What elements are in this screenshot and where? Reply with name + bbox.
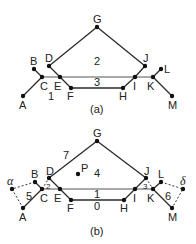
label-h: H [120,202,128,214]
vertex-e [58,75,62,79]
vertex-k [151,75,155,79]
label-d: D [45,52,53,64]
label-l: L [158,168,164,180]
face-label-2: 2 [46,182,51,191]
label-c: C [40,192,48,204]
edge-i-j [135,66,145,77]
label-g: G [93,13,102,25]
label-alpha: α [7,174,14,188]
vertex-d [47,64,51,68]
caption-b: (b) [90,225,103,237]
vertex-b [32,67,36,71]
edge-g-j [97,27,145,66]
label-f: F [67,90,74,102]
face-label-6: 6 [165,190,171,202]
label-c: C [40,80,48,92]
vertex-m [170,206,174,210]
face-label-4: 4 [94,167,100,179]
label-delta: δ [180,174,186,188]
label-b: B [31,168,38,180]
vertex-c [40,187,44,191]
edge-e-f [60,189,71,200]
vertex-k [151,187,155,191]
edge-d-g [49,141,97,178]
vertex-l [159,67,163,71]
label-j: J [144,165,150,177]
vertex-l [159,180,163,184]
vertex-g [95,139,99,143]
face-label-3: 3 [143,182,148,191]
face-label-0: 0 [94,200,100,212]
face-label-2: 2 [94,55,100,67]
vertex-a [21,94,25,98]
vertex-e [58,187,62,191]
edge-k-m [153,77,172,96]
edge-e-f [60,77,71,88]
label-f: F [67,202,74,214]
edge-g-j [97,141,146,178]
label-m: M [168,99,177,111]
face-label-1: 1 [48,90,54,102]
label-m: M [168,211,177,223]
label-e: E [54,192,61,204]
label-i: I [133,80,136,92]
label-h: H [119,90,127,102]
edge-d-e [49,178,60,189]
label-k: K [147,192,155,204]
vertex-b [33,180,37,184]
caption-a: (a) [90,103,103,115]
vertex-j [143,64,147,68]
label-a: A [19,211,27,223]
label-b: B [30,55,37,67]
label-a: A [19,99,27,111]
face-label-3: 3 [94,76,100,88]
vertex-c [40,75,44,79]
label-d: D [46,165,54,177]
vertex-i [133,187,137,191]
face-label-7: 7 [63,149,69,161]
label-e: E [54,80,61,92]
label-g: G [93,127,102,139]
label-l: L [164,63,170,75]
planar-graph-figure: G D J B C E I K L F H A M 2 3 1 (a) [0,0,196,244]
label-i: I [133,192,136,204]
edge-d-e [49,66,60,77]
vertex-i [133,75,137,79]
face-label-5: 5 [26,190,32,202]
vertex-p [76,172,80,176]
edge-d-g [49,27,97,66]
label-k: K [147,80,155,92]
vertex-g [95,25,99,29]
vertex-m [170,94,174,98]
face-label-1: 1 [94,188,100,200]
label-p: P [81,162,88,174]
label-j: J [143,52,149,64]
diagram-b: G D J B α C E I K L δ F H A M P 7 4 1 0 … [7,127,186,237]
diagram-a: G D J B C E I K L F H A M 2 3 1 (a) [19,13,177,115]
vertex-a [21,206,25,210]
